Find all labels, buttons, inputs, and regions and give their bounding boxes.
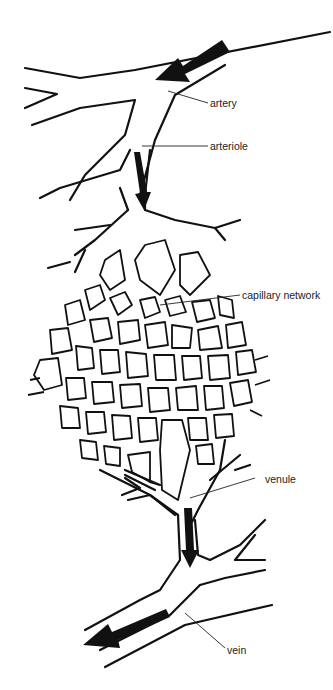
capillary-leader (160, 295, 240, 305)
venule-leader (190, 478, 255, 498)
capillary-network-label: capillary network (242, 289, 320, 301)
arteriole-vessel (40, 150, 150, 210)
vein-flow-arrow (83, 609, 170, 648)
arteriole-label: arteriole (210, 140, 248, 152)
vein-label: vein (227, 644, 246, 656)
artery-flow-arrow (155, 40, 230, 82)
venule-label: venule (265, 473, 296, 485)
artery-vessel (25, 32, 330, 200)
venule-branches (100, 440, 250, 522)
circulation-diagram (0, 0, 333, 690)
arteriole-branches (48, 210, 240, 272)
artery-label: artery (210, 97, 237, 109)
